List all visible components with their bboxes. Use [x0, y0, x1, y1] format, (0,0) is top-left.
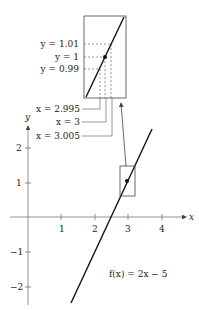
y-tick-label-m2: −2 — [10, 282, 23, 292]
inset-label-x-3: x = 3 — [56, 117, 80, 127]
zoom-arrow — [121, 103, 126, 166]
y-tick-label-2: 2 — [16, 143, 22, 153]
x-axis-label: x — [189, 212, 194, 222]
inset-label-x-3-005: x = 3.005 — [36, 131, 80, 141]
y-tick-label-m1: −1 — [10, 247, 23, 257]
x-tick-label-4: 4 — [159, 224, 165, 234]
function-graph: x y 1 2 3 4 2 1 −1 −2 — [0, 0, 199, 310]
x-tick-label-1: 1 — [59, 224, 65, 234]
inset-label-x-2-995: x = 2.995 — [36, 104, 80, 114]
y-axis-label: y — [24, 112, 31, 122]
x-tick-label-3: 3 — [125, 224, 131, 234]
inset-point — [103, 55, 107, 59]
y-tick-label-1: 1 — [16, 178, 22, 188]
inset-label-y-1-01: y = 1.01 — [40, 39, 79, 49]
inset-label-y-1: y = 1 — [54, 52, 79, 62]
inset-label-y-0-99: y = 0.99 — [40, 64, 80, 74]
function-label: f(x) = 2x − 5 — [109, 269, 168, 279]
inset-zoom — [84, 16, 126, 98]
point-3-1 — [125, 179, 129, 183]
x-tick-label-2: 2 — [92, 224, 98, 234]
